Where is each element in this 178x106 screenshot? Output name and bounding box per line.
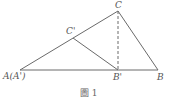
- label-b: B: [156, 72, 164, 82]
- label-c-prime: C': [66, 26, 75, 36]
- label-b-prime: B': [112, 72, 122, 82]
- label-a: A(A'): [2, 71, 26, 81]
- segment-cprime-bprime: [73, 38, 118, 70]
- segment-a-c: [20, 11, 118, 70]
- label-c: C: [115, 0, 122, 10]
- segment-c-b: [118, 11, 158, 70]
- figure-caption: 圖 1: [80, 88, 98, 98]
- geometry-figure: C C' A(A') B' B 圖 1: [0, 0, 178, 106]
